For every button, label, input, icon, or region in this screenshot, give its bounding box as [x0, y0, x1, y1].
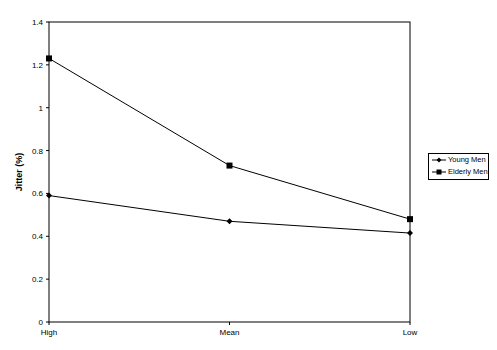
y-tick-label: 1.2 [32, 61, 44, 70]
x-tick-label: High [41, 328, 57, 337]
y-tick-label: 0.8 [32, 147, 44, 156]
square-marker-icon [227, 163, 233, 169]
series-line [49, 196, 410, 234]
y-tick-label: 0.4 [32, 232, 44, 241]
y-tick-label: 0.2 [32, 275, 44, 284]
y-tick-label: 1.4 [32, 18, 44, 27]
y-tick-label: 0.6 [32, 189, 44, 198]
plot-area [49, 22, 410, 322]
diamond-marker-icon [227, 218, 233, 224]
legend-label-elderly-men: Elderly Men [448, 166, 488, 178]
y-tick-label: 0 [39, 318, 44, 327]
legend-label-young-men: Young Men [448, 154, 486, 166]
legend: Young Men Elderly Men [428, 153, 489, 180]
legend-item-elderly-men: Elderly Men [429, 166, 488, 178]
series-line [49, 58, 410, 219]
x-tick-label: Mean [219, 328, 239, 337]
diamond-marker-icon [407, 230, 413, 236]
legend-item-young-men: Young Men [429, 154, 488, 166]
square-marker-icon [432, 166, 446, 178]
y-axis-title: Jitter (%) [14, 153, 24, 192]
y-tick-label: 1 [39, 104, 44, 113]
line-chart: 00.20.40.60.811.21.4HighMeanLowJitter (%… [0, 0, 497, 350]
diamond-marker-icon [432, 154, 446, 166]
square-marker-icon [46, 55, 52, 61]
square-marker-icon [407, 216, 413, 222]
x-tick-label: Low [403, 328, 418, 337]
